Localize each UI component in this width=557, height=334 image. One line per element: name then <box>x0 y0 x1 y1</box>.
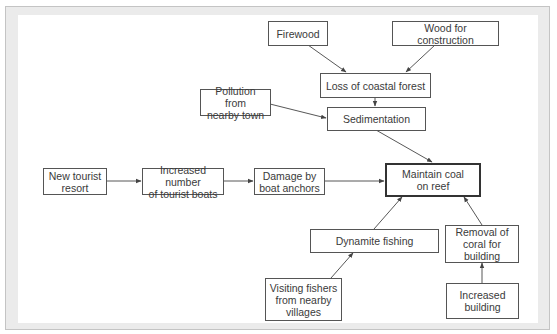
node-wood-for-construction: Wood for construction <box>392 21 499 46</box>
node-maintain-coral-on-reef: Maintain coal on reef <box>385 163 481 197</box>
node-removal-of-coral-for-building: Removal of coral for building <box>445 225 519 263</box>
node-dynamite-fishing: Dynamite fishing <box>310 229 439 253</box>
node-increased-tourist-boats: Increased number of tourist boats <box>142 168 224 195</box>
node-sedimentation: Sedimentation <box>327 107 426 131</box>
node-damage-by-boat-anchors: Damage by boat anchors <box>254 168 325 195</box>
node-visiting-fishers: Visiting fishers from nearby villages <box>265 278 342 321</box>
node-firewood: Firewood <box>268 21 328 46</box>
node-increased-building: Increased building <box>446 283 519 319</box>
node-loss-of-coastal-forest: Loss of coastal forest <box>320 73 431 98</box>
node-pollution-from-nearby-town: Pollution from nearby town <box>200 89 271 116</box>
node-new-tourist-resort: New tourist resort <box>43 168 107 195</box>
